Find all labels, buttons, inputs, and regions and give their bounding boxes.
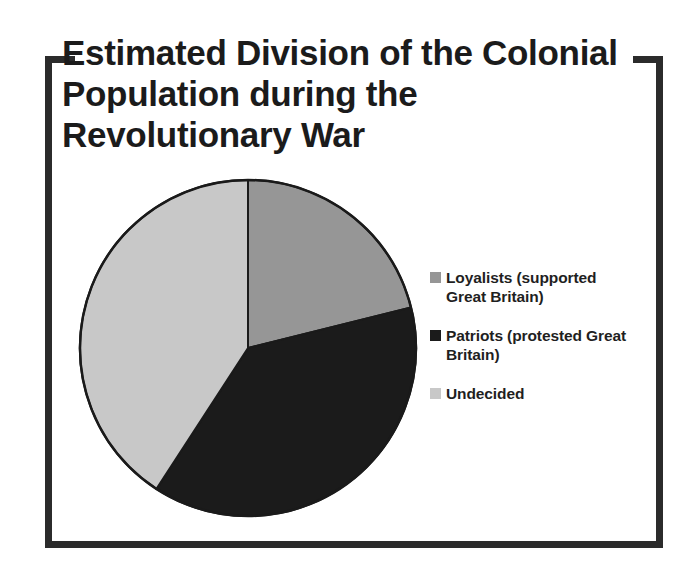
pie-slice[interactable]: [157, 307, 417, 516]
frame-right-edge: [656, 56, 663, 548]
pie-slice-group: [80, 180, 416, 516]
square-swatch-icon: [430, 272, 441, 283]
frame-left-edge: [45, 56, 52, 548]
legend-item-label: Patriots (protested Great Britain): [446, 326, 640, 364]
pie-slice[interactable]: [80, 180, 248, 489]
legend-item-patriots[interactable]: Patriots (protested Great Britain): [430, 326, 640, 364]
legend-item-loyalists[interactable]: Loyalists (supported Great Britain): [430, 268, 640, 306]
pie-slice[interactable]: [248, 180, 411, 348]
pie-chart-svg: [72, 172, 424, 524]
slide-canvas: Estimated Division of the Colonial Popul…: [0, 0, 695, 580]
pie-outline: [80, 180, 416, 516]
chart-legend: Loyalists (supported Great Britain) Patr…: [430, 268, 640, 423]
frame-bottom-edge: [45, 541, 663, 548]
square-swatch-icon: [430, 330, 441, 341]
square-swatch-icon: [430, 388, 441, 399]
page-title: Estimated Division of the Colonial Popul…: [62, 32, 622, 155]
legend-item-undecided[interactable]: Undecided: [430, 384, 640, 403]
frame-top-right-arm: [633, 56, 663, 63]
legend-item-label: Undecided: [446, 384, 524, 403]
legend-item-label: Loyalists (supported Great Britain): [446, 268, 640, 306]
